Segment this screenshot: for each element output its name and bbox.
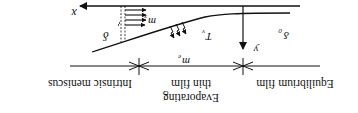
svg-text:m: m: [182, 56, 190, 68]
svg-text:Evaporating: Evaporating: [163, 91, 219, 104]
y-axis-label: y: [253, 44, 259, 56]
Tv-label: T v: [201, 28, 212, 43]
svg-text:m: m: [148, 16, 156, 28]
svg-text:T: T: [205, 31, 212, 43]
mx-label: m x: [143, 13, 156, 28]
thin-film-diagram: x δ m x T v m e y δ 0 Intrinsic meniscus…: [0, 0, 358, 113]
delta0-label: δ 0: [278, 27, 289, 42]
delta-brace: [118, 22, 120, 26]
svg-text:Intrinsic meniscus: Intrinsic meniscus: [47, 78, 132, 90]
svg-text:δ: δ: [283, 30, 289, 42]
region-dimension-line: [70, 58, 320, 75]
delta-label: δ: [103, 29, 109, 43]
svg-text:thin film: thin film: [171, 78, 211, 90]
svg-text:0: 0: [278, 27, 282, 35]
region-label-evaporating-thin-film: thin film Evaporating: [163, 78, 219, 104]
film-interface-curve: [92, 13, 290, 52]
velocity-profile-arrows: [125, 10, 146, 25]
x-axis-label: x: [71, 6, 78, 20]
region-label-intrinsic-meniscus: Intrinsic meniscus: [47, 78, 132, 90]
svg-text:e: e: [178, 53, 181, 61]
diagram-canvas: x δ m x T v m e y δ 0 Intrinsic meniscus…: [0, 0, 358, 113]
svg-text:δ: δ: [103, 29, 109, 43]
svg-text:v: v: [201, 28, 205, 36]
svg-text:y: y: [253, 44, 259, 56]
region-label-equilibrium-film: Equilibrium film: [256, 77, 334, 90]
svg-text:Equilibrium film: Equilibrium film: [256, 77, 334, 90]
